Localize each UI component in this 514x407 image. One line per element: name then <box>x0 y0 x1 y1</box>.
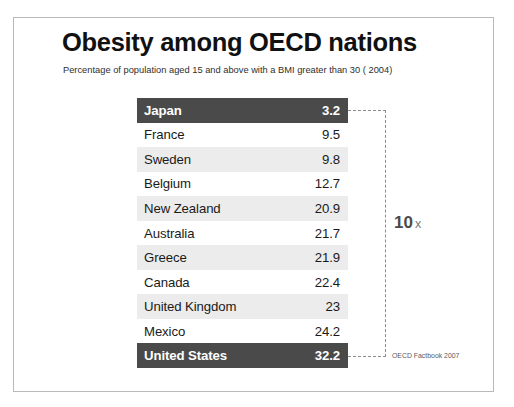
obesity-table: Japan 3.2 France 9.5 Sweden 9.8 Belgium … <box>137 98 348 368</box>
row-value: 9.5 <box>322 127 348 142</box>
table-row: Sweden 9.8 <box>137 147 348 172</box>
row-country-label: Canada <box>137 275 315 290</box>
row-value: 3.2 <box>322 103 348 118</box>
row-value: 21.7 <box>315 226 348 241</box>
table-row: Japan 3.2 <box>137 98 348 123</box>
row-value: 20.9 <box>315 201 348 216</box>
row-country-label: United States <box>137 348 315 363</box>
row-country-label: New Zealand <box>137 201 315 216</box>
row-country-label: Greece <box>137 250 315 265</box>
row-value: 22.4 <box>315 275 348 290</box>
row-country-label: Australia <box>137 226 315 241</box>
row-country-label: France <box>137 127 322 142</box>
ratio-annotation: 10x <box>394 214 421 231</box>
row-value: 23 <box>326 299 348 314</box>
table-row: United States 32.2 <box>137 343 348 368</box>
row-value: 9.8 <box>322 152 348 167</box>
row-country-label: Sweden <box>137 152 322 167</box>
table-row: Greece 21.9 <box>137 245 348 270</box>
table-row: United Kingdom 23 <box>137 294 348 319</box>
table-row: Belgium 12.7 <box>137 172 348 197</box>
row-country-label: United Kingdom <box>137 299 326 314</box>
row-country-label: Japan <box>137 103 322 118</box>
table-row: Canada 22.4 <box>137 270 348 295</box>
source-credit: OECD Factbook 2007 <box>392 353 459 360</box>
ratio-multiplier-symbol: x <box>415 217 421 231</box>
row-value: 21.9 <box>315 250 348 265</box>
table-row: Mexico 24.2 <box>137 319 348 344</box>
chart-subtitle: Percentage of population aged 15 and abo… <box>63 66 473 75</box>
ratio-number: 10 <box>394 213 413 232</box>
row-value: 12.7 <box>315 176 348 191</box>
page-title: Obesity among OECD nations <box>62 30 462 56</box>
table-row: Australia 21.7 <box>137 221 348 246</box>
row-country-label: Mexico <box>137 324 315 339</box>
slide-canvas: Obesity among OECD nations Percentage of… <box>0 0 514 407</box>
table-row: France 9.5 <box>137 123 348 148</box>
row-country-label: Belgium <box>137 176 315 191</box>
table-row: New Zealand 20.9 <box>137 196 348 221</box>
row-value: 32.2 <box>315 348 348 363</box>
row-value: 24.2 <box>315 324 348 339</box>
